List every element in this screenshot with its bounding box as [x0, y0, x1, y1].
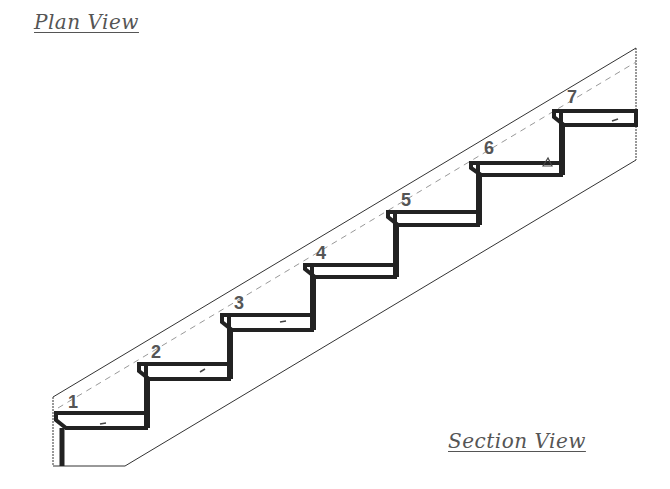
step-number-3: 3	[234, 293, 244, 313]
step-number-2: 2	[151, 342, 161, 362]
steps	[56, 111, 636, 466]
section-view-label: Section View	[448, 429, 586, 453]
step-number-1: 1	[68, 392, 78, 412]
pitch-line	[58, 62, 636, 408]
stringer-outline	[53, 48, 636, 466]
step-number-4: 4	[316, 243, 326, 263]
step-number-6: 6	[484, 138, 494, 158]
step-number-7: 7	[567, 87, 577, 107]
staircase-diagram: 1 2 3 4 5 6 7	[0, 0, 670, 489]
step-number-5: 5	[401, 190, 411, 210]
